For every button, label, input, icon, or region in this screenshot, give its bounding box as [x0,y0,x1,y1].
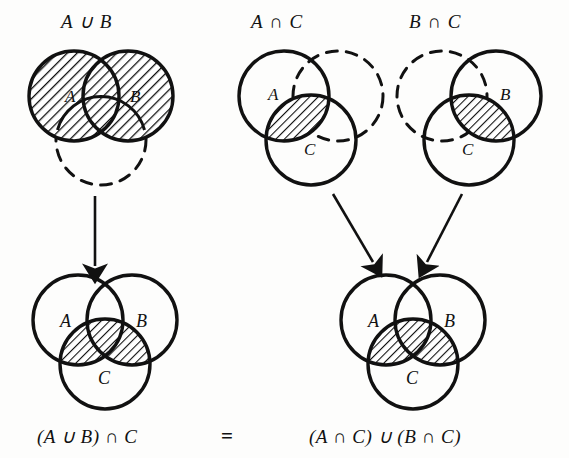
set-label-c: C [406,368,419,388]
arrow-diag-left [333,194,373,262]
venn-diagram-figure: A ∪ B A ∩ C B ∩ C A B [0,0,569,458]
set-label-a: A [367,311,380,331]
set-label-c: C [98,368,111,388]
set-label-b: B [444,311,455,331]
panel-result-left: A B C [22,272,197,422]
set-label-a: A [59,311,72,331]
caption-left-result: (A ∪ B) ∩ C [37,427,137,446]
caption-right-result: (A ∩ C) ∪ (B ∩ C) [309,427,461,446]
arrow-diag-right [427,194,462,262]
set-label-b: B [136,311,147,331]
panel-result-right: A B C [330,272,505,422]
equals-sign: = [221,426,233,447]
